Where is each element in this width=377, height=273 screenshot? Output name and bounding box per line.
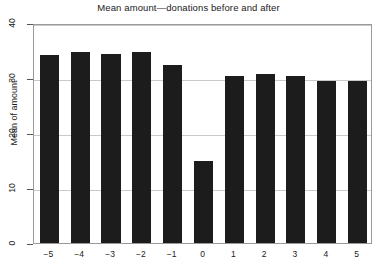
x-tick-label: 3 — [281, 249, 309, 259]
x-tick-label: 0 — [189, 249, 217, 259]
y-tick-label: 0 — [7, 231, 17, 255]
bar — [348, 81, 367, 243]
bar — [256, 74, 275, 243]
bar — [132, 52, 151, 243]
plot-area — [33, 24, 372, 244]
bar — [163, 65, 182, 243]
bar — [40, 55, 59, 243]
bar — [286, 76, 305, 243]
x-tick-label: 4 — [312, 249, 340, 259]
y-tick-label: 10 — [7, 176, 17, 200]
bar — [317, 81, 336, 243]
bars-group — [34, 25, 371, 243]
bar — [101, 54, 120, 243]
y-tick-label: 40 — [7, 11, 17, 35]
x-tick-label: −1 — [158, 249, 186, 259]
bar-chart: Mean amount—donations before and after M… — [0, 0, 377, 273]
chart-title: Mean amount—donations before and after — [0, 2, 377, 13]
x-tick-label: 1 — [219, 249, 247, 259]
bar — [225, 76, 244, 243]
x-tick-label: −4 — [65, 249, 93, 259]
bar — [71, 52, 90, 243]
x-tick-label: −2 — [127, 249, 155, 259]
x-tick-label: 2 — [250, 249, 278, 259]
x-tick-label: −3 — [96, 249, 124, 259]
x-tick-label: −5 — [34, 249, 62, 259]
y-tick-label: 30 — [7, 66, 17, 90]
y-tick-label: 20 — [7, 121, 17, 145]
y-tick-mark — [27, 244, 33, 245]
bar — [194, 161, 213, 244]
x-tick-label: 5 — [343, 249, 371, 259]
